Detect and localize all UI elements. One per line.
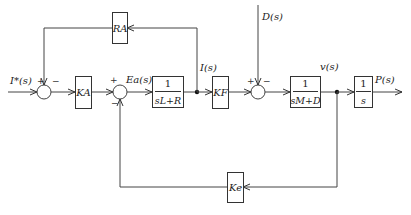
output-label: P(s) xyxy=(375,75,395,85)
ra-block: RA xyxy=(112,12,128,44)
electrical-numerator: 1 xyxy=(165,78,171,91)
kf-block: KF xyxy=(212,76,229,109)
diagram-wiring xyxy=(0,0,411,215)
mechanical-denominator: sM+D xyxy=(290,92,320,106)
ka-block: KA xyxy=(75,76,92,109)
mechanical-transfer-block: 1 sM+D xyxy=(290,76,321,108)
error-voltage-label: Ea(s) xyxy=(126,75,152,85)
sum2-minus-sign: − xyxy=(111,99,119,108)
disturbance-label: D(s) xyxy=(262,12,283,22)
mechanical-numerator: 1 xyxy=(302,78,308,91)
ra-label: RA xyxy=(113,23,128,34)
sum1-plus-sign: + xyxy=(37,77,45,86)
integrator-block: 1 s xyxy=(354,76,373,108)
sum1-minus-sign: − xyxy=(52,77,60,86)
sum2-plus-sign: + xyxy=(110,76,118,85)
kf-label: KF xyxy=(213,87,227,98)
input-signal-label: I*(s) xyxy=(10,76,32,86)
sum-junction-3 xyxy=(251,85,265,99)
ka-label: KA xyxy=(76,87,90,98)
integrator-denominator: s xyxy=(361,92,366,106)
sum-junction-2 xyxy=(113,85,127,99)
sum-junction-1 xyxy=(37,85,51,99)
electrical-denominator: sL+R xyxy=(155,92,181,106)
electrical-transfer-block: 1 sL+R xyxy=(152,76,184,108)
ke-block: Ke xyxy=(227,172,244,203)
ke-label: Ke xyxy=(229,182,242,193)
integrator-numerator: 1 xyxy=(360,78,366,91)
sum3-minus-sign: − xyxy=(263,77,271,86)
current-label: I(s) xyxy=(200,63,217,73)
sum3-plus-sign: + xyxy=(247,77,255,86)
velocity-label: v(s) xyxy=(320,62,339,72)
